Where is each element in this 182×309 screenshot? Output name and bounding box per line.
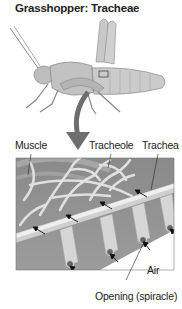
label-tracheole: Tracheole bbox=[89, 139, 134, 151]
diagram-illustration bbox=[0, 0, 182, 309]
label-air: Air bbox=[147, 264, 159, 276]
trachea-detail-panel bbox=[16, 154, 176, 280]
arrow-head-icon bbox=[66, 132, 90, 150]
zoom-arrow bbox=[76, 92, 88, 136]
label-opening-spiracle: Opening (spiracle) bbox=[95, 290, 177, 302]
grasshopper-illustration bbox=[10, 19, 165, 114]
label-muscle: Muscle bbox=[15, 139, 47, 151]
label-trachea: Trachea bbox=[142, 139, 179, 151]
